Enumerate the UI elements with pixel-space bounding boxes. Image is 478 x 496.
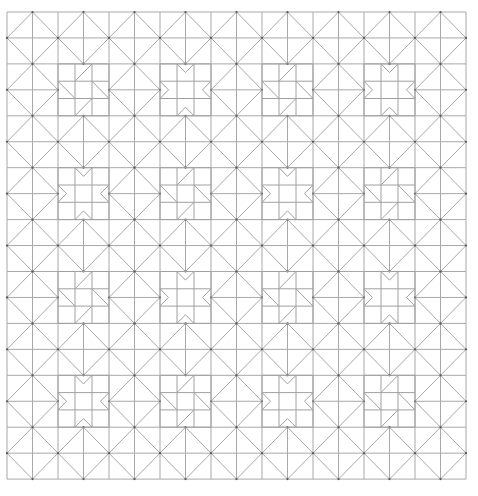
star-point-line [203, 297, 212, 306]
vertex-dot [286, 478, 288, 480]
diagonal-line [109, 401, 135, 427]
diagonal-line [211, 38, 237, 64]
pinwheel-star-block [58, 272, 109, 324]
star-point-line [177, 168, 194, 185]
vertex-dot [465, 296, 467, 298]
diagonal-line [58, 220, 84, 246]
vertex-dot [31, 374, 33, 376]
vertex-dot [439, 322, 441, 324]
vertex-dot [337, 63, 339, 65]
diagonal-line [237, 194, 263, 220]
star-point-line [177, 375, 194, 392]
diagonal-line [441, 142, 467, 168]
diagonal-line [262, 349, 288, 375]
quilt-pattern-canvas [0, 0, 478, 496]
diagonal-line [33, 427, 59, 453]
diagonal-line [313, 38, 339, 64]
vertex-dot [210, 141, 212, 143]
diagonal-line [211, 323, 237, 349]
diagonal-line [364, 453, 390, 479]
vertex-dot [133, 63, 135, 65]
diagonal-line [390, 323, 416, 349]
diagonal-line [58, 38, 84, 64]
vertex-dot [261, 141, 263, 143]
star-point-line [279, 375, 288, 384]
diagonal-line [211, 194, 237, 220]
diagonal-line [211, 401, 237, 427]
star-point-line [177, 272, 186, 281]
vertex-dot [31, 322, 33, 324]
star-point-line [364, 90, 373, 99]
diagonal-line [160, 349, 186, 375]
diagonal-line [313, 142, 339, 168]
diagonal-line [186, 38, 212, 64]
diagonal-line [237, 12, 263, 38]
diagonal-line [415, 142, 441, 168]
diagonal-line [33, 90, 59, 116]
diagonal-line [364, 427, 390, 453]
diagonal-line [211, 220, 237, 246]
sawtooth-star-block [160, 272, 211, 324]
diagonal-line [211, 64, 237, 90]
diagonal-line [313, 194, 339, 220]
diagonal-line [237, 64, 263, 90]
star-point-line [203, 289, 212, 298]
diagonal-line [313, 116, 339, 142]
vertex-dot [108, 348, 110, 350]
diagonal-line [135, 375, 161, 401]
diagonal-line [211, 272, 237, 298]
star-point-line [101, 194, 110, 203]
vertex-dot [414, 37, 416, 39]
diagonal-line [237, 272, 263, 298]
diagonal-line [364, 323, 390, 349]
diagonal-line [237, 401, 263, 427]
pinwheel-star-block [160, 168, 211, 220]
vertex-dot [133, 115, 135, 117]
vertex-dot [337, 374, 339, 376]
diagonal-line [441, 90, 467, 116]
diagonal-line [109, 323, 135, 349]
diagonal-line [262, 427, 288, 453]
diagonal-line [339, 38, 365, 64]
star-point-line [381, 202, 398, 219]
diagonal-line [135, 220, 161, 246]
vertex-dot [439, 219, 441, 221]
diagonal-line [237, 375, 263, 401]
diagonal-line [211, 453, 237, 479]
diagonal-line [33, 272, 59, 298]
vertex-dot [210, 37, 212, 39]
diagonal-line [441, 272, 467, 298]
diagonal-line [288, 12, 314, 38]
vertex-dot [439, 167, 441, 169]
vertex-dot [312, 348, 314, 350]
star-point-line [305, 401, 314, 410]
diagonal-line [339, 12, 365, 38]
vertex-dot [465, 400, 467, 402]
diagonal-line [339, 323, 365, 349]
vertex-dot [465, 89, 467, 91]
vertex-dot [465, 348, 467, 350]
star-point-line [262, 81, 279, 98]
diagonal-line [211, 246, 237, 272]
diagonal-line [390, 12, 416, 38]
diagonal-line [84, 12, 110, 38]
vertex-dot [57, 244, 59, 246]
vertex-dot [31, 63, 33, 65]
vertex-dot [312, 141, 314, 143]
diagonal-line [415, 168, 441, 194]
diagonal-line [237, 323, 263, 349]
diagonal-line [415, 220, 441, 246]
diagonal-line [33, 349, 59, 375]
vertex-dot [439, 11, 441, 13]
diagonal-line [135, 349, 161, 375]
diagonal-line [237, 116, 263, 142]
vertex-dot [133, 478, 135, 480]
vertex-dot [6, 452, 8, 454]
vertex-dot [388, 11, 390, 13]
diagonal-line [211, 12, 237, 38]
diagonal-line [441, 12, 467, 38]
diagonal-line [313, 12, 339, 38]
diagonal-line [313, 401, 339, 427]
star-point-line [390, 64, 399, 73]
vertex-dot [312, 244, 314, 246]
